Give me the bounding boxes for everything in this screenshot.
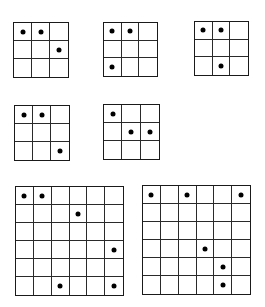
grid-cell: [15, 106, 33, 124]
grid-cell: [122, 41, 140, 59]
grid-cell: [104, 58, 122, 76]
dot-marker: [112, 284, 117, 289]
grid-cell: [230, 40, 248, 58]
grid-cell: [33, 106, 51, 124]
grid-cell: [161, 222, 179, 240]
dot-marker: [40, 193, 45, 198]
grid-3: [194, 21, 249, 76]
grid-cell: [213, 57, 231, 75]
dot-marker: [239, 192, 244, 197]
dot-marker: [38, 29, 43, 34]
grid-cell: [104, 105, 122, 123]
grid-cell: [122, 58, 140, 76]
dot-marker: [218, 28, 223, 33]
grid-cell: [104, 23, 122, 41]
dot-marker: [220, 283, 225, 288]
grid-cell: [105, 241, 123, 259]
grid-cell: [122, 123, 140, 141]
grid-cell: [14, 59, 32, 77]
dot-marker: [57, 47, 62, 52]
dot-marker: [20, 29, 25, 34]
dot-marker: [58, 284, 63, 289]
grid-cell: [141, 123, 159, 141]
grid-cell: [52, 187, 70, 205]
grid-cell: [104, 141, 122, 159]
grid-cell: [143, 276, 161, 294]
grid-cell: [179, 222, 197, 240]
grid-cell: [70, 205, 88, 223]
grid-cell: [139, 41, 157, 59]
grid-cell: [16, 223, 34, 241]
grid-cell: [16, 187, 34, 205]
grid-cell: [214, 204, 232, 222]
grid-cell: [105, 277, 123, 295]
grid-cell: [32, 23, 50, 41]
grid-cell: [214, 222, 232, 240]
grid-cell: [15, 124, 33, 142]
grid-cell: [122, 141, 140, 159]
grid-cell: [161, 258, 179, 276]
grid-6: [15, 186, 124, 296]
grid-cell: [161, 204, 179, 222]
grid-cell: [16, 241, 34, 259]
grid-cell: [232, 222, 250, 240]
dot-marker: [202, 246, 207, 251]
grid-1: [13, 22, 69, 78]
grid-cell: [197, 258, 215, 276]
grid-cell: [32, 41, 50, 59]
grid-cell: [139, 58, 157, 76]
grid-cell: [104, 41, 122, 59]
dot-marker: [22, 193, 27, 198]
grid-cell: [87, 241, 105, 259]
grid-2: [103, 22, 158, 77]
grid-cell: [105, 187, 123, 205]
grid-cell: [197, 276, 215, 294]
grid-cell: [214, 186, 232, 204]
dot-marker: [110, 65, 115, 70]
grid-cell: [52, 277, 70, 295]
grid-cell: [34, 241, 52, 259]
grid-cell: [161, 276, 179, 294]
grid-cell: [87, 205, 105, 223]
dot-marker: [39, 112, 44, 117]
dot-marker: [112, 247, 117, 252]
grid-cell: [33, 142, 51, 160]
grid-cell: [213, 40, 231, 58]
dot-marker: [147, 129, 152, 134]
grid-cell: [179, 186, 197, 204]
dot-marker: [149, 192, 154, 197]
grid-cell: [105, 205, 123, 223]
grid-cell: [230, 22, 248, 40]
dot-marker: [58, 149, 63, 154]
grid-cell: [105, 223, 123, 241]
grid-cell: [16, 205, 34, 223]
grid-cell: [16, 259, 34, 277]
grid-cell: [87, 187, 105, 205]
grid-cell: [230, 57, 248, 75]
grid-cell: [50, 59, 68, 77]
grid-cell: [34, 205, 52, 223]
grid-cell: [87, 223, 105, 241]
grid-cell: [87, 277, 105, 295]
grid-cell: [51, 124, 69, 142]
grid-cell: [197, 240, 215, 258]
dot-marker: [75, 211, 80, 216]
dot-marker: [127, 29, 132, 34]
grid-cell: [143, 258, 161, 276]
grid-cell: [50, 41, 68, 59]
grid-cell: [34, 277, 52, 295]
grid-cell: [214, 258, 232, 276]
grid-cell: [34, 187, 52, 205]
dot-marker: [220, 264, 225, 269]
grid-cell: [161, 240, 179, 258]
grid-cell: [105, 259, 123, 277]
grid-cell: [14, 23, 32, 41]
grid-cell: [195, 22, 213, 40]
grid-cell: [232, 204, 250, 222]
grid-cell: [179, 276, 197, 294]
grid-cell: [50, 23, 68, 41]
grid-cell: [52, 205, 70, 223]
grid-cell: [87, 259, 105, 277]
grid-cell: [214, 240, 232, 258]
grid-cell: [70, 277, 88, 295]
